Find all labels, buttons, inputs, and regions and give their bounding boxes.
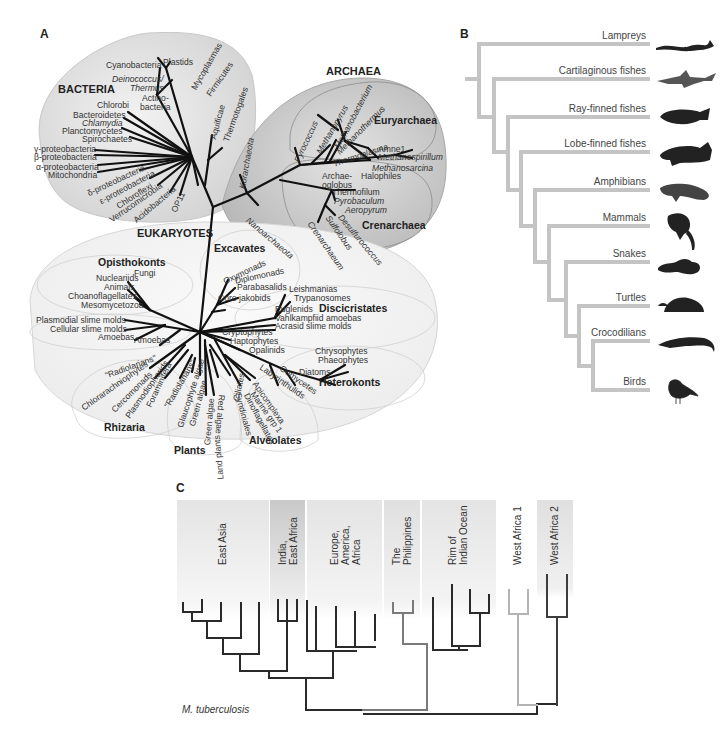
- tuberculosis-phylogeny: [0, 0, 724, 735]
- organism-label: M. tuberculosis: [182, 705, 249, 715]
